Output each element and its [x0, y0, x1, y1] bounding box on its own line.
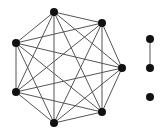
graph-diagram — [0, 0, 162, 131]
graph-node — [12, 88, 20, 96]
graph-edge — [102, 68, 122, 112]
graph-node — [146, 93, 154, 101]
nodes-layer — [12, 8, 154, 127]
graph-svg — [0, 0, 162, 131]
graph-edge — [16, 68, 122, 92]
graph-node — [146, 64, 154, 72]
graph-node — [118, 64, 126, 72]
graph-node — [98, 19, 106, 27]
graph-edge — [102, 23, 122, 68]
graph-node — [50, 119, 58, 127]
graph-edge — [16, 12, 54, 92]
graph-node — [98, 108, 106, 116]
graph-node — [146, 35, 154, 43]
graph-edge — [16, 43, 54, 123]
edges-layer — [16, 12, 150, 123]
graph-edge — [54, 23, 102, 123]
graph-node — [50, 8, 58, 16]
graph-node — [12, 39, 20, 47]
